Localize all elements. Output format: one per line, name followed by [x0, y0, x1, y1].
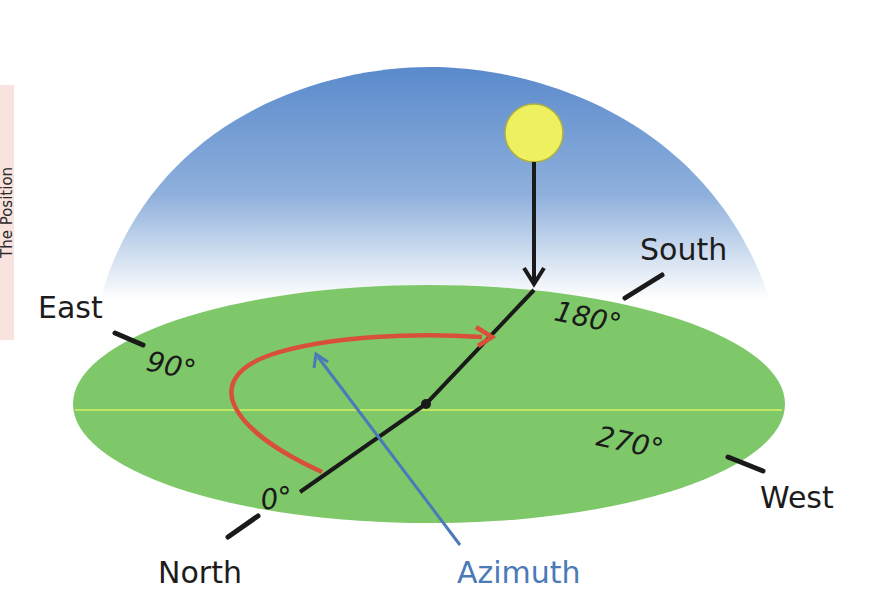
north-tick — [228, 516, 258, 537]
observer-point — [421, 399, 431, 409]
label-east: East — [38, 290, 103, 325]
label-azimuth: Azimuth — [457, 555, 581, 590]
degree-north: 0° — [258, 480, 294, 517]
label-south: South — [640, 232, 727, 267]
sun-icon — [505, 104, 563, 162]
label-north: North — [158, 555, 242, 590]
azimuth-diagram: East South West North 90° 180° 270° 0° A… — [0, 0, 880, 614]
label-west: West — [760, 480, 834, 515]
